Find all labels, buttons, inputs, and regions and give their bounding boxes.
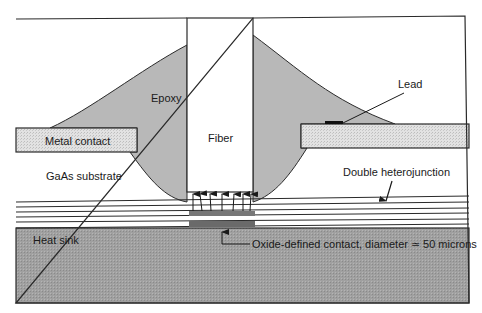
lead-bond [325,121,343,124]
emission-arrow [233,194,234,211]
led-diagram: Epoxy Fiber Lead Metal contact GaAs subs… [0,0,482,313]
metal-contact-right [301,124,469,148]
label-double-heterojunction: Double heterojunction [343,166,450,178]
active-region-upper [189,211,255,216]
label-epoxy: Epoxy [151,92,182,104]
label-metal-contact: Metal contact [45,135,110,147]
emission-arrow [200,194,202,211]
oxide-contact [189,221,255,227]
label-oxide-contact: Oxide-defined contact, diameter ≃ 50 mic… [252,238,477,250]
label-heat-sink: Heat sink [33,234,79,246]
label-gaas-substrate: GaAs substrate [46,170,122,182]
heterojunction-pointer [386,181,392,201]
label-fiber: Fiber [208,132,233,144]
label-lead: Lead [398,78,422,90]
emission-arrow [250,194,251,211]
emission-arrow [210,194,211,211]
fiber [187,18,253,192]
emission-arrows [193,194,251,211]
